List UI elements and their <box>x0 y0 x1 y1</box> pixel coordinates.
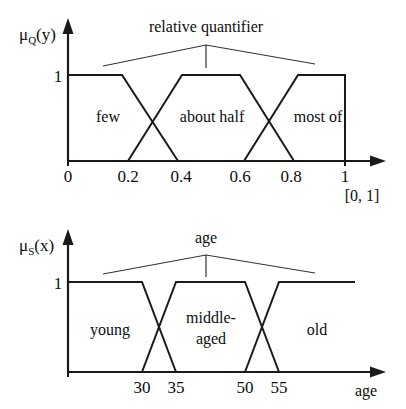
membership-curve-old <box>245 282 355 372</box>
top-x-tick-label-1: 1 <box>341 167 350 186</box>
top-y-tick-label-1: 1 <box>54 67 63 86</box>
term-label-few: few <box>96 108 120 125</box>
term-label-about-half: about half <box>180 108 245 125</box>
bottom-x-tick-label-55: 55 <box>271 378 288 397</box>
bottom-x-axis <box>68 367 386 378</box>
bottom-y-tick-label-1: 1 <box>54 274 63 293</box>
top-x-tick-label-0: 0 <box>64 167 73 186</box>
age-bracket <box>103 255 315 277</box>
relative-quantifier-group-label: relative quantifier <box>149 18 264 36</box>
age-chart: age 1 μS(x) 30 35 50 55 age young m <box>19 229 386 400</box>
bottom-x-tick-label-30: 30 <box>134 378 151 397</box>
age-group-label: age <box>195 229 217 247</box>
top-x-tick-label-04: 0.4 <box>170 167 192 186</box>
top-x-axis-arrowhead <box>370 156 386 167</box>
membership-curve-few <box>68 75 178 161</box>
bottom-y-axis-arrowhead <box>63 229 74 245</box>
term-label-most-of: most of <box>294 108 343 125</box>
bottom-x-tick-label-50: 50 <box>237 378 254 397</box>
bottom-x-axis-label: age <box>355 382 377 400</box>
top-x-axis <box>68 156 386 167</box>
top-y-axis <box>63 18 74 161</box>
relative-quantifier-chart: relative quantifier 1 μQ(y) 0 0.2 0.4 0.… <box>19 18 386 204</box>
term-label-old: old <box>307 321 327 338</box>
top-x-tick-label-08: 0.8 <box>280 167 301 186</box>
term-label-middle-aged-line1: middle- <box>186 309 236 326</box>
membership-curve-middle-aged <box>142 282 279 372</box>
term-label-middle-aged-line2: aged <box>196 330 226 348</box>
fuzzy-membership-figure: relative quantifier 1 μQ(y) 0 0.2 0.4 0.… <box>0 0 406 409</box>
term-label-young: young <box>90 321 130 339</box>
top-domain-label: [0, 1] <box>345 187 380 204</box>
bottom-y-axis-label: μS(x) <box>19 236 54 257</box>
top-y-axis-label: μQ(y) <box>19 25 56 46</box>
top-x-tick-label-02: 0.2 <box>117 167 138 186</box>
bottom-x-axis-arrowhead <box>370 367 386 378</box>
top-y-axis-arrowhead <box>63 18 74 34</box>
bottom-x-tick-label-35: 35 <box>168 378 185 397</box>
top-x-tick-label-06: 0.6 <box>229 167 250 186</box>
bottom-y-axis <box>63 229 74 372</box>
relative-quantifier-bracket <box>103 45 315 68</box>
